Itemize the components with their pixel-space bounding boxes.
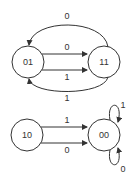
edge-label-self-bottom: 0 [116, 164, 130, 174]
node-label-01: 01 [13, 57, 43, 67]
edge-label-self-top: 1 [116, 100, 130, 110]
edge-label-lower: 1 [60, 72, 74, 82]
node-label-10: 10 [12, 130, 42, 140]
edge-label-top-arc: 0 [60, 11, 74, 21]
state-diagram: 01 11 10 00 0 0 1 1 1 0 1 0 [0, 0, 133, 178]
edge-label-10-00-lower: 0 [60, 145, 74, 155]
node-label-11: 11 [89, 57, 119, 67]
edge-label-upper: 0 [60, 42, 74, 52]
edge-00-self-bottom [109, 148, 119, 165]
edge-label-10-00-upper: 1 [60, 115, 74, 125]
edge-label-bottom-arc: 1 [60, 93, 74, 103]
node-label-00: 00 [89, 130, 119, 140]
